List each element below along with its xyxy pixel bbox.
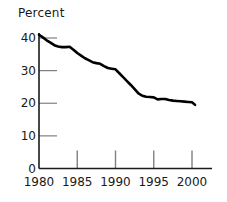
chart-plot-area xyxy=(0,0,227,202)
data-series-line xyxy=(39,35,195,105)
x-tick-label: 1995 xyxy=(133,176,175,188)
x-tick-label: 1990 xyxy=(95,176,137,188)
x-tick-marks xyxy=(77,151,192,169)
y-tick-marks xyxy=(39,38,57,136)
x-tick-label: 1985 xyxy=(56,176,98,188)
line-chart: Percent 010203040 19801985199019952000 xyxy=(0,0,227,202)
x-tick-label: 1980 xyxy=(18,176,60,188)
x-tick-label: 2000 xyxy=(171,176,213,188)
